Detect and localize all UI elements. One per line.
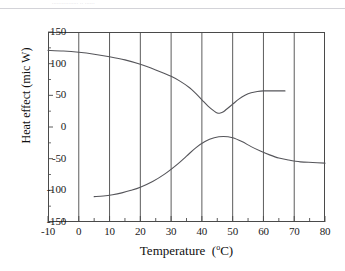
x-tick-label: 20 bbox=[125, 225, 155, 237]
y-tick-label: -100 bbox=[47, 183, 66, 195]
x-tick-label: 0 bbox=[64, 225, 94, 237]
x-tick-label: 80 bbox=[310, 225, 340, 237]
y-axis-label: Heat effect (mic W) bbox=[19, 21, 34, 171]
x-axis-label: Temperature (oC) bbox=[48, 243, 325, 259]
y-tick-label: 0 bbox=[61, 120, 66, 132]
y-tick-label: 100 bbox=[50, 57, 66, 69]
x-tick-label: 60 bbox=[248, 225, 278, 237]
figure-container: ................ .. ...... 150 100 50 0 … bbox=[0, 0, 345, 271]
x-axis-label-text: Temperature bbox=[140, 243, 206, 258]
y-tick-label: 150 bbox=[50, 25, 66, 37]
x-tick-label: 10 bbox=[95, 225, 125, 237]
x-tick-label: 40 bbox=[187, 225, 217, 237]
x-tick-label: 50 bbox=[218, 225, 248, 237]
y-tick-label: 50 bbox=[55, 88, 66, 100]
y-tick-label: -50 bbox=[52, 152, 66, 164]
x-tick-label: 30 bbox=[156, 225, 186, 237]
x-tick-label: -10 bbox=[33, 225, 63, 237]
x-tick-label: 70 bbox=[279, 225, 309, 237]
